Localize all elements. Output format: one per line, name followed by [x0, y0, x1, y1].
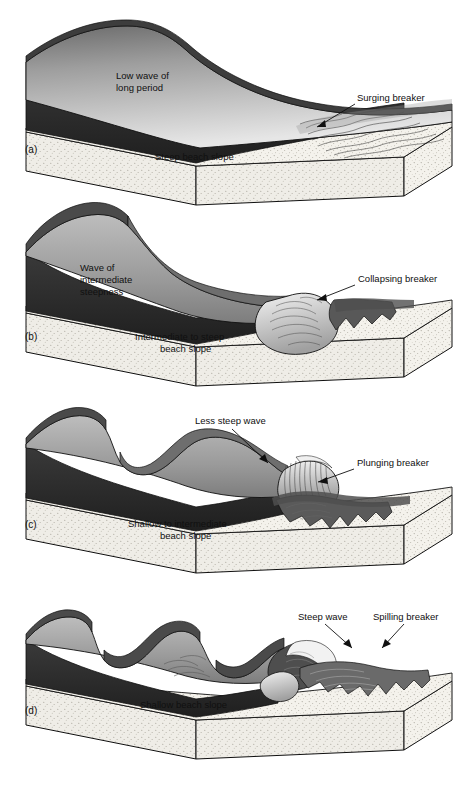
panel-d-breaker-label: Spilling breaker: [373, 611, 438, 622]
panel-b-wave-label-line3: steepness: [80, 286, 124, 297]
panel-c-breaker-label: Plunging breaker: [357, 457, 429, 468]
panel-d-panel-label: (d): [25, 705, 37, 716]
panel-b-wave-label-line2: intermediate: [80, 274, 132, 285]
panel-d-slope-label: Shallow beach slope: [140, 699, 227, 710]
panel-b-slope-label-line2: beach slope: [160, 343, 211, 354]
panel-c-wave-label: Less steep wave: [195, 415, 266, 426]
panel-b-collapsing-breaker-face: [255, 293, 338, 354]
panel-b-slope-label-line1: Intermediate to steep: [135, 331, 224, 342]
panel-b-breaker-label: Collapsing breaker: [358, 273, 437, 284]
panel-a-slope-label: Steep beach slope: [155, 151, 234, 162]
panel-c-panel-label: (c): [25, 519, 37, 530]
panel-c-slope-label-line2: beach slope: [160, 530, 211, 541]
panel-a-wave-label-line2: long period: [116, 82, 163, 93]
panel-a-wave-label-line1: Low wave of: [116, 70, 169, 81]
panel-b-panel-label: (b): [25, 331, 37, 342]
panel-b-wave-label-line1: Wave of: [80, 262, 115, 273]
panel-c-slope-label-line1: Shallow to intermediate: [128, 518, 227, 529]
panel-a-panel-label: (a): [25, 144, 37, 155]
wave-breaker-types-figure: Low wave of long period Surging breaker …: [0, 0, 476, 812]
panel-d-wave-label: Steep wave: [298, 611, 348, 622]
panel-a-breaker-label: Surging breaker: [357, 92, 425, 103]
